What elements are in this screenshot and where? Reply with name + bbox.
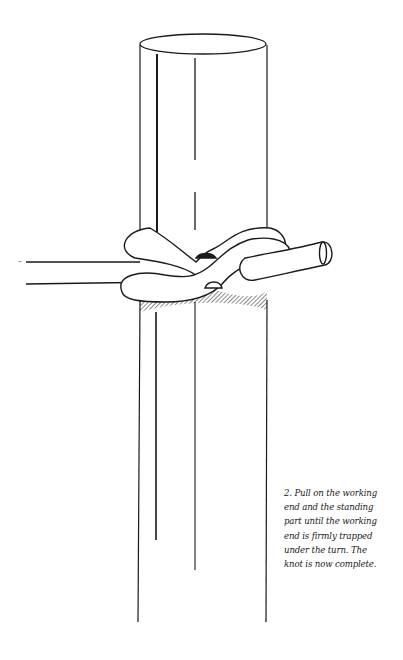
svg-text:⁼: ⁼ — [18, 259, 22, 267]
caption-line: knot is now complete. — [284, 557, 402, 571]
caption-line: part until the working — [284, 514, 402, 528]
pole — [138, 34, 267, 622]
caption-line: end is firmly trapped — [284, 529, 402, 543]
rope: ⁼ — [18, 228, 332, 302]
caption-line: end and the standing — [284, 500, 402, 514]
step-caption: 2. Pull on the working end and the stand… — [284, 486, 402, 571]
caption-line: under the turn. The — [284, 543, 402, 557]
caption-line: 2. Pull on the working — [284, 486, 402, 500]
